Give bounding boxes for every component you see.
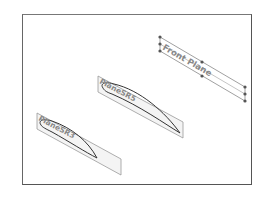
plane-sr5[interactable]: PlaneSR5 [98, 76, 183, 138]
front-plane[interactable]: Front Plane [158, 35, 246, 102]
plane-sr3[interactable]: PlaneSR3 [37, 113, 121, 175]
model-scene[interactable]: Front Plane PlaneSR5 PlaneSR3 [0, 0, 264, 197]
front-plane-label: Front Plane [161, 42, 214, 78]
